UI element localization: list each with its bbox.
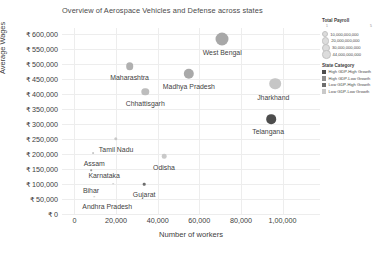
size-legend-bubble-icon	[322, 31, 328, 37]
size-legend-entry[interactable]: 30,000,000,000	[322, 45, 387, 51]
plot-area: West BengalMaharashtraMadhya PradeshJhar…	[62, 28, 320, 214]
category-swatch-icon	[322, 83, 326, 87]
data-point-bubble[interactable]	[94, 196, 96, 198]
category-swatch-icon	[322, 76, 326, 80]
data-point-label: Karnataka	[88, 172, 119, 179]
data-point-label: Maharashtra	[110, 74, 149, 81]
size-legend-scale: 1 5	[324, 24, 387, 30]
data-point-label: Chhattisgarh	[126, 100, 165, 107]
category-swatch-icon	[322, 89, 326, 93]
gridline-horizontal	[62, 124, 320, 125]
data-point-bubble[interactable]	[162, 154, 167, 159]
category-legend: State Category High GDP-High GrowthHigh …	[322, 63, 387, 95]
gridline-horizontal	[62, 199, 320, 200]
y-axis-tick: ₹ 0	[48, 210, 58, 219]
size-legend-label: 10,000,000,000	[330, 32, 358, 37]
gridline-vertical	[283, 28, 284, 214]
size-legend-label: 44,000,000,000	[333, 52, 361, 57]
data-point-label: Bihar	[83, 187, 99, 194]
category-legend-entry[interactable]: Low GDP-Low Growth	[322, 89, 387, 95]
x-axis-tick: 1,00,000	[269, 216, 297, 225]
y-axis-tick: ₹ 550,000	[26, 45, 58, 54]
y-axis-tick: ₹ 50,000	[30, 195, 58, 204]
data-point-label: Gujarat	[133, 191, 156, 198]
data-point-label: Jharkhand	[257, 94, 289, 101]
data-point-label: Assam	[84, 160, 105, 167]
x-axis-tick: 40,000	[147, 216, 169, 225]
y-axis-tick-labels: ₹ 0₹ 50,000₹ 100,000₹ 150,000₹ 200,000₹ …	[0, 28, 60, 214]
gridline-horizontal	[62, 79, 320, 80]
data-point-bubble[interactable]	[216, 32, 229, 45]
gridline-vertical	[199, 28, 200, 214]
category-swatch-icon	[322, 70, 326, 74]
gridline-horizontal	[62, 139, 320, 140]
gridline-vertical	[158, 28, 159, 214]
data-point-label: Madhya Pradesh	[163, 83, 215, 90]
data-point-bubble[interactable]	[92, 152, 94, 154]
category-legend-entry[interactable]: High GDP-Low Growth	[322, 75, 387, 81]
size-scale-min: 1	[326, 24, 328, 28]
data-point-bubble[interactable]	[143, 183, 146, 186]
category-legend-label: High GDP-High Growth	[329, 69, 372, 74]
size-legend-label: 30,000,000,000	[332, 45, 360, 50]
y-axis-tick: ₹ 350,000	[26, 105, 58, 114]
category-legend-entry[interactable]: High GDP-High Growth	[322, 69, 387, 75]
y-axis-tick: ₹ 100,000	[26, 180, 58, 189]
size-legend-entries: 10,000,000,00020,000,000,00030,000,000,0…	[322, 31, 387, 58]
y-axis-tick: ₹ 150,000	[26, 165, 58, 174]
gridline-horizontal	[62, 34, 320, 35]
x-axis-tick: 20,000	[105, 216, 127, 225]
category-legend-entries: High GDP-High GrowthHigh GDP-Low GrowthL…	[322, 69, 387, 95]
data-point-bubble[interactable]	[184, 69, 194, 79]
x-axis-title: Number of workers	[62, 230, 320, 239]
gridline-horizontal	[62, 169, 320, 170]
bubble-chart: Overview of Aerospace Vehicles and Defen…	[0, 0, 387, 253]
data-point-label: Andhra Pradesh	[82, 203, 132, 210]
category-legend-label: Low GDP-Low Growth	[329, 89, 370, 94]
gridline-vertical	[116, 28, 117, 214]
data-point-bubble[interactable]	[266, 114, 276, 124]
x-axis-tick-labels: 020,00040,00060,00080,0001,00,000	[62, 216, 320, 228]
y-axis-tick: ₹ 500,000	[26, 60, 58, 69]
x-axis-tick: 0	[72, 216, 76, 225]
legend: Total Payroll 1 5 10,000,000,00020,000,0…	[322, 18, 387, 95]
gridline-horizontal	[62, 49, 320, 50]
y-axis-tick: ₹ 300,000	[26, 120, 58, 129]
x-axis-tick: 60,000	[188, 216, 210, 225]
gridline-vertical	[74, 28, 75, 214]
data-point-bubble[interactable]	[112, 183, 114, 185]
data-point-bubble[interactable]	[126, 62, 134, 70]
y-axis-tick: ₹ 200,000	[26, 150, 58, 159]
category-legend-title: State Category	[322, 63, 387, 68]
gridline-horizontal	[62, 154, 320, 155]
data-point-label: Tamil Nadu	[99, 146, 133, 153]
x-axis-tick: 80,000	[230, 216, 252, 225]
size-legend-entry[interactable]: 20,000,000,000	[322, 38, 387, 44]
category-legend-entry[interactable]: Low GDP-High Growth	[322, 82, 387, 88]
y-axis-tick: ₹ 400,000	[26, 90, 58, 99]
category-legend-label: Low GDP-High Growth	[329, 82, 371, 87]
gridline-horizontal	[62, 184, 320, 185]
size-scale-max: 5	[370, 24, 372, 28]
y-axis-tick: ₹ 250,000	[26, 135, 58, 144]
gridline-horizontal	[62, 109, 320, 110]
size-legend-entry[interactable]: 44,000,000,000	[322, 51, 387, 57]
size-legend-title: Total Payroll	[322, 18, 387, 23]
gridline-horizontal	[62, 214, 320, 215]
data-point-label: Odisha	[153, 164, 175, 171]
gridline-vertical	[241, 28, 242, 214]
data-point-bubble[interactable]	[114, 137, 117, 140]
data-point-label: Telangana	[252, 128, 284, 135]
size-legend-label: 20,000,000,000	[331, 38, 359, 43]
data-point-bubble[interactable]	[269, 78, 281, 90]
size-legend-entry[interactable]: 10,000,000,000	[322, 31, 387, 37]
data-point-bubble[interactable]	[90, 169, 92, 171]
gridline-horizontal	[62, 64, 320, 65]
category-legend-label: High GDP-Low Growth	[329, 76, 371, 81]
size-legend-bubble-icon	[322, 50, 331, 59]
y-axis-tick: ₹ 600,000	[26, 30, 58, 39]
y-axis-tick: ₹ 450,000	[26, 75, 58, 84]
data-point-label: West Bengal	[203, 49, 242, 56]
chart-title: Overview of Aerospace Vehicles and Defen…	[62, 6, 342, 15]
